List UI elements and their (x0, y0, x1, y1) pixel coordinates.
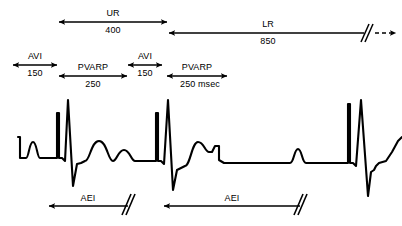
aei-2-break-mark (294, 194, 307, 215)
lr-value: 850 (260, 36, 275, 46)
aei-1-break-mark (122, 194, 135, 215)
ecg-complex-2 (147, 100, 242, 190)
avi-2-label: AVI (138, 51, 152, 61)
pvarp-1-value: 250 (85, 79, 100, 89)
pvarp-2-value: 250 msec (180, 79, 220, 89)
pvarp-2-label: PVARP (182, 62, 212, 72)
aei-2-label: AEI (225, 193, 240, 203)
ecg-waveform (18, 100, 402, 196)
ecg-complex-3 (242, 100, 402, 196)
ur-value: 400 (105, 25, 120, 35)
ecg-complex-1 (18, 100, 147, 186)
pvarp-1-label: PVARP (78, 62, 108, 72)
lr-interval-arrow (169, 24, 396, 42)
ur-label: UR (106, 8, 119, 18)
aei-1-label: AEI (81, 193, 96, 203)
avi-2-value: 150 (137, 68, 152, 78)
avi-1-label: AVI (28, 51, 42, 61)
lr-label: LR (262, 19, 274, 29)
diagram-canvas (0, 0, 402, 226)
ecg-timing-diagram: UR 400 LR 850 AVI 150 PVARP 250 AVI 150 … (0, 0, 402, 226)
avi-1-value: 150 (27, 68, 42, 78)
